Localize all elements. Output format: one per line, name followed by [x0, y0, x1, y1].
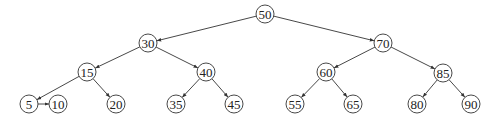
node-label: 55 [289, 97, 302, 112]
edge-50-to-30 [157, 16, 257, 41]
edge-85-to-90 [449, 80, 465, 98]
node-label: 15 [81, 65, 94, 80]
edge-30-to-15 [95, 47, 140, 68]
node-label: 60 [320, 65, 333, 80]
edge-60-to-55 [301, 78, 319, 97]
edge-60-to-65 [332, 79, 347, 97]
node-label: 90 [465, 97, 478, 112]
nodes-group: 5030701540608551020354555658090 [20, 5, 480, 113]
edge-40-to-35 [182, 79, 200, 98]
tree-node-40: 40 [197, 63, 215, 81]
tree-node-70: 70 [374, 34, 392, 52]
edge-50-to-70 [274, 16, 375, 41]
node-label: 10 [52, 97, 65, 112]
edge-15-to-20 [93, 79, 110, 98]
edge-30-to-40 [156, 47, 198, 68]
node-label: 50 [259, 7, 272, 22]
node-label: 20 [110, 97, 123, 112]
tree-node-30: 30 [139, 34, 157, 52]
node-label: 40 [200, 65, 213, 80]
tree-node-65: 65 [344, 95, 362, 113]
tree-node-50: 50 [256, 5, 274, 23]
tree-node-80: 80 [408, 95, 426, 113]
tree-node-10: 10 [49, 95, 67, 113]
node-label: 35 [170, 97, 183, 112]
tree-node-45: 45 [225, 95, 243, 113]
node-label: 80 [411, 97, 424, 112]
tree-node-85: 85 [434, 64, 452, 82]
tree-node-60: 60 [317, 63, 335, 81]
tree-diagram: 5030701540608551020354555658090 [0, 0, 499, 125]
edge-85-to-80 [423, 80, 437, 97]
edge-70-to-60 [334, 47, 375, 68]
node-label: 85 [437, 66, 450, 81]
tree-node-35: 35 [167, 95, 185, 113]
tree-node-15: 15 [78, 63, 96, 81]
tree-node-55: 55 [286, 95, 304, 113]
edge-40-to-45 [212, 79, 228, 97]
tree-node-20: 20 [107, 95, 125, 113]
edge-70-to-85 [391, 47, 435, 69]
tree-node-5: 5 [20, 95, 38, 113]
node-label: 30 [142, 36, 155, 51]
node-label: 45 [228, 97, 241, 112]
tree-node-90: 90 [462, 95, 480, 113]
edges-group [37, 16, 465, 104]
node-label: 5 [26, 97, 33, 112]
node-label: 65 [347, 97, 360, 112]
node-label: 70 [377, 36, 390, 51]
